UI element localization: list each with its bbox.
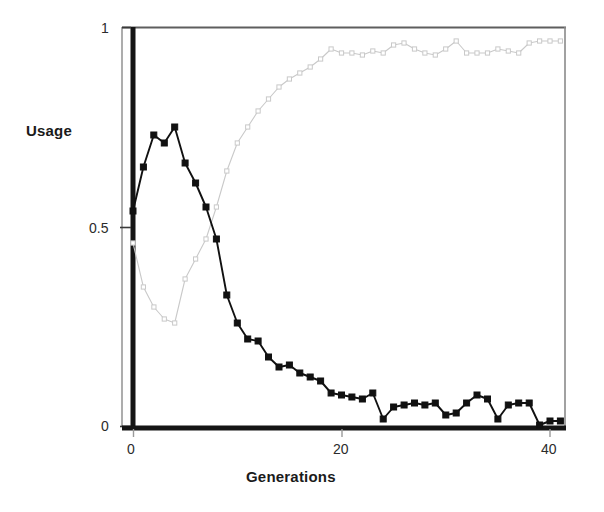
data-point-marker: [505, 402, 511, 408]
data-point-marker: [266, 354, 272, 360]
data-point-marker: [194, 257, 198, 261]
chart-plot-area: [0, 0, 604, 512]
data-point-marker: [151, 132, 157, 138]
data-point-marker: [432, 400, 438, 406]
data-point-marker: [140, 164, 146, 170]
data-point-marker: [517, 51, 521, 55]
plot-frame: [122, 27, 566, 427]
data-point-marker: [130, 208, 136, 214]
data-point-marker: [256, 109, 260, 113]
data-point-marker: [339, 392, 345, 398]
data-point-marker: [516, 400, 522, 406]
data-point-marker: [485, 51, 489, 55]
data-point-marker: [474, 392, 480, 398]
data-point-marker: [225, 169, 229, 173]
data-point-marker: [495, 416, 501, 422]
x-tick-label-0: 0: [127, 441, 135, 457]
data-point-marker: [203, 204, 209, 210]
data-point-marker: [506, 49, 510, 53]
y-tick-label-0: 0: [101, 418, 109, 434]
data-point-marker: [538, 39, 542, 43]
data-point-marker: [213, 236, 219, 242]
data-point-marker: [464, 400, 470, 406]
series-line: [133, 127, 560, 425]
data-point-marker: [193, 180, 199, 186]
data-point-marker: [350, 51, 354, 55]
data-point-marker: [141, 285, 145, 289]
data-point-marker: [412, 47, 416, 51]
data-point-marker: [392, 43, 396, 47]
data-point-marker: [131, 241, 135, 245]
data-point-marker: [286, 362, 292, 368]
series-dark-series: [130, 124, 563, 428]
data-point-marker: [235, 141, 239, 145]
data-point-marker: [454, 39, 458, 43]
data-point-marker: [526, 400, 532, 406]
data-point-marker: [360, 53, 364, 57]
data-point-marker: [172, 124, 178, 130]
data-point-marker: [297, 370, 303, 376]
data-point-marker: [558, 39, 562, 43]
data-point-marker: [548, 39, 552, 43]
data-point-marker: [453, 410, 459, 416]
data-point-marker: [381, 51, 385, 55]
data-point-marker: [412, 400, 418, 406]
x-axis: [122, 428, 566, 437]
data-point-marker: [339, 51, 343, 55]
data-point-marker: [277, 85, 281, 89]
data-point-marker: [557, 418, 563, 424]
x-axis-title: Generations: [246, 468, 336, 485]
data-point-marker: [328, 390, 334, 396]
data-point-marker: [371, 49, 375, 53]
data-point-marker: [224, 292, 230, 298]
data-point-marker: [496, 47, 500, 51]
data-point-marker: [245, 336, 251, 342]
data-point-marker: [318, 378, 324, 384]
data-point-marker: [465, 51, 469, 55]
y-tick-label-05: 0.5: [89, 220, 108, 236]
data-point-marker: [319, 57, 323, 61]
data-point-marker: [391, 404, 397, 410]
data-point-marker: [173, 321, 177, 325]
data-point-marker: [527, 41, 531, 45]
data-point-marker: [359, 396, 365, 402]
y-tick-label-1: 1: [101, 20, 109, 36]
data-point-marker: [161, 140, 167, 146]
data-point-marker: [349, 394, 355, 400]
data-point-marker: [537, 422, 543, 428]
y-axis-title: Usage: [26, 122, 72, 139]
data-point-marker: [443, 412, 449, 418]
data-point-marker: [401, 402, 407, 408]
data-point-marker: [402, 41, 406, 45]
x-tick-label-40: 40: [541, 441, 557, 457]
data-point-marker: [370, 390, 376, 396]
data-point-marker: [307, 374, 313, 380]
data-point-marker: [287, 77, 291, 81]
data-point-marker: [214, 205, 218, 209]
data-point-marker: [298, 71, 302, 75]
data-point-marker: [485, 396, 491, 402]
data-point-marker: [433, 53, 437, 57]
data-point-marker: [475, 51, 479, 55]
data-point-marker: [246, 125, 250, 129]
chart-figure: Usage Generations 1 0.5 0 0 20 40: [0, 0, 604, 512]
data-point-marker: [182, 160, 188, 166]
x-tick-label-20: 20: [333, 441, 349, 457]
data-point-marker: [380, 416, 386, 422]
data-point-marker: [266, 97, 270, 101]
data-point-marker: [255, 338, 261, 344]
data-point-marker: [422, 402, 428, 408]
data-point-marker: [329, 47, 333, 51]
data-point-marker: [152, 305, 156, 309]
data-point-marker: [162, 317, 166, 321]
data-point-marker: [276, 364, 282, 370]
data-point-marker: [547, 418, 553, 424]
data-point-marker: [423, 51, 427, 55]
data-point-marker: [308, 65, 312, 69]
data-point-marker: [234, 320, 240, 326]
data-point-marker: [444, 47, 448, 51]
data-point-marker: [183, 277, 187, 281]
data-point-marker: [204, 237, 208, 241]
